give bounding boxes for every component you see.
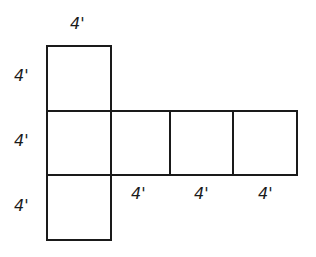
net-square-middle-square-2 [111,111,170,175]
dimension-label-left-lower: 4' [14,198,29,214]
dimension-label-bottom-second: 4' [194,186,209,202]
net-square-middle-square-3 [170,111,233,175]
net-square-middle-square-1 [47,111,111,175]
net-diagram-figure: 4' 4' 4' 4' 4' 4' 4' [0,0,316,257]
dimension-label-top: 4' [70,16,85,32]
net-diagram-svg [0,0,316,257]
dimension-label-left-middle: 4' [14,133,29,149]
net-square-bottom-square [47,175,111,240]
net-square-middle-square-4 [233,111,297,175]
dimension-label-left-upper: 4' [14,68,29,84]
dimension-label-bottom-first: 4' [131,186,146,202]
net-squares-group [47,46,297,240]
dimension-label-bottom-third: 4' [258,186,273,202]
net-square-top-square [47,46,111,111]
